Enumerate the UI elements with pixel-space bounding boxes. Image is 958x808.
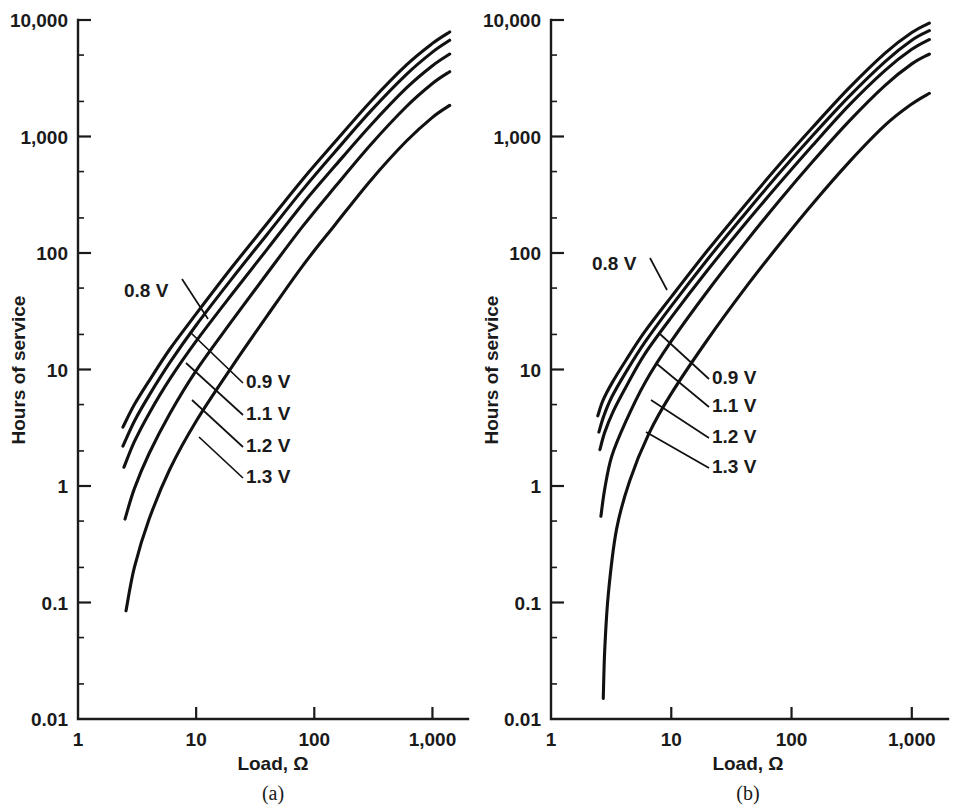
- panel-a-curves: [123, 32, 450, 611]
- curve-annotation-label: 1.2 V: [246, 435, 291, 456]
- curve-1-3-v: [603, 93, 929, 698]
- y-tick-label: 100: [509, 243, 541, 264]
- panel-b-y-axis-title: Hours of service: [481, 296, 502, 445]
- panel-a-caption: (a): [262, 782, 284, 805]
- panel-b-curves: [598, 23, 930, 698]
- curve-1-1-v: [600, 40, 929, 450]
- y-tick-label: 1: [57, 476, 68, 497]
- panel-a-y-ticks: [78, 20, 91, 684]
- y-tick-label: 10: [47, 360, 68, 381]
- y-tick-label: 1: [530, 476, 541, 497]
- annotation-leader-line: [651, 400, 709, 438]
- curve-annotation-label: 0.8 V: [592, 253, 637, 274]
- y-tick-label: 0.1: [42, 593, 69, 614]
- x-tick-label: 100: [298, 729, 330, 750]
- y-tick-label: 0.1: [515, 593, 542, 614]
- panel-a-x-tick-labels: 1101001,000: [73, 729, 456, 750]
- y-tick-label: 10,000: [10, 10, 68, 31]
- y-tick-label: 10,000: [483, 10, 541, 31]
- curve-annotation-label: 0.8 V: [124, 280, 169, 301]
- annotation-leader-line: [646, 432, 709, 468]
- y-tick-label: 1,000: [493, 127, 541, 148]
- y-tick-label: 0.01: [504, 709, 541, 730]
- annotation-leader-line: [199, 437, 243, 478]
- panel-b-y-ticks: [551, 20, 564, 684]
- panel-a-axis-lines: [78, 20, 468, 719]
- curve-annotation-label: 1.3 V: [712, 456, 757, 477]
- y-tick-label: 10: [520, 360, 541, 381]
- x-tick-label: 1: [546, 729, 557, 750]
- y-tick-label: 0.01: [31, 709, 68, 730]
- figure-container: 0.010.11101001,00010,000 1101001,000 0.8…: [0, 0, 958, 808]
- panel-a-y-axis-title: Hours of service: [8, 296, 29, 445]
- curve-annotation-label: 0.9 V: [712, 367, 757, 388]
- annotation-leader-line: [657, 364, 709, 407]
- x-tick-label: 100: [776, 729, 808, 750]
- curve-annotation-label: 1.2 V: [712, 426, 757, 447]
- curve-1-2-v: [601, 54, 929, 516]
- x-tick-label: 10: [186, 729, 207, 750]
- x-tick-label: 10: [661, 729, 682, 750]
- x-tick-label: 1: [73, 729, 84, 750]
- curve-annotation-label: 1.1 V: [246, 403, 291, 424]
- panel-a-axes: [78, 20, 468, 719]
- annotation-leader-line: [650, 258, 667, 290]
- panel-b: 0.010.11101001,00010,000 1101001,000 0.8…: [481, 10, 948, 805]
- y-tick-label: 1,000: [20, 127, 68, 148]
- annotation-leader-line: [186, 363, 243, 415]
- panel-b-x-tick-labels: 1101001,000: [546, 729, 936, 750]
- panel-a: 0.010.11101001,00010,000 1101001,000 0.8…: [8, 10, 468, 805]
- dual-loglog-chart: 0.010.11101001,00010,000 1101001,000 0.8…: [0, 0, 958, 808]
- panel-b-x-ticks: [671, 707, 912, 719]
- panel-a-x-axis-title: Load, Ω: [237, 753, 308, 774]
- x-tick-label: 1,000: [888, 729, 936, 750]
- curve-annotation-label: 1.1 V: [712, 395, 757, 416]
- curve-annotation-label: 1.3 V: [246, 466, 291, 487]
- curve-annotation-label: 0.9 V: [246, 371, 291, 392]
- panel-b-caption: (b): [736, 782, 759, 805]
- y-tick-label: 100: [36, 243, 68, 264]
- panel-a-x-ticks: [196, 707, 432, 719]
- x-tick-label: 1,000: [409, 729, 457, 750]
- curve-0-8-v: [123, 32, 450, 427]
- panel-b-x-axis-title: Load, Ω: [712, 753, 783, 774]
